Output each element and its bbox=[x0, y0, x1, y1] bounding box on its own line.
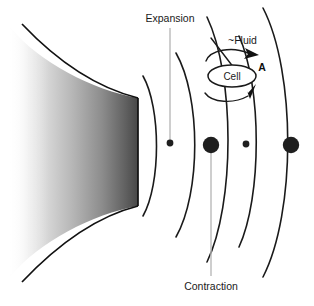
expansion-label: Expansion bbox=[145, 12, 194, 24]
node-dot-group bbox=[167, 137, 300, 153]
node-dot-small-2 bbox=[243, 141, 250, 148]
wave-arc-2 bbox=[176, 53, 195, 237]
diagram-canvas: Expansion Contraction ~Fluid Cell A bbox=[0, 0, 314, 306]
circulation-arrow-top-icon bbox=[244, 48, 259, 59]
node-dot-large-2 bbox=[283, 137, 299, 153]
node-dot-large-1 bbox=[203, 137, 219, 153]
transducer-block-fade bbox=[10, 28, 138, 276]
fluid-label: ~Fluid bbox=[228, 34, 257, 46]
contraction-label: Contraction bbox=[184, 280, 238, 292]
circulation-arrow-bottom-icon bbox=[247, 84, 256, 99]
transducer-block bbox=[10, 24, 138, 282]
wave-arc-1 bbox=[143, 76, 157, 216]
figure-container: Expansion Contraction ~Fluid Cell A bbox=[0, 0, 314, 306]
leader-group bbox=[170, 28, 211, 276]
cell-label: Cell bbox=[223, 71, 240, 82]
amplitude-label: A bbox=[258, 61, 266, 73]
node-dot-small-1 bbox=[167, 140, 174, 147]
